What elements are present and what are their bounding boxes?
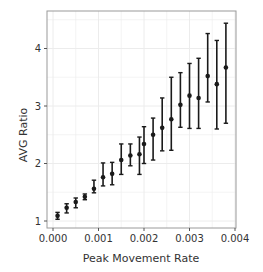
x-tick-label: 0.004 bbox=[221, 233, 250, 244]
data-point bbox=[196, 58, 201, 128]
data-point bbox=[110, 162, 115, 184]
x-tick-label: 0.001 bbox=[84, 233, 113, 244]
x-axis-title: Peak Movement Rate bbox=[83, 252, 200, 265]
y-axis: 1234 bbox=[35, 43, 47, 227]
y-tick-label: 4 bbox=[35, 43, 41, 54]
data-point bbox=[224, 23, 229, 123]
data-point bbox=[101, 163, 106, 186]
data-point bbox=[205, 34, 210, 102]
x-tick-label: 0.000 bbox=[39, 233, 68, 244]
x-axis: 0.0000.0010.0020.0030.004 bbox=[39, 228, 250, 244]
data-point bbox=[119, 144, 124, 174]
x-tick-label: 0.002 bbox=[130, 233, 159, 244]
data-point bbox=[215, 40, 220, 129]
y-axis-title: AVG Ratio bbox=[17, 107, 30, 162]
data-point bbox=[92, 180, 97, 193]
data-point bbox=[142, 127, 147, 164]
data-point bbox=[178, 73, 183, 128]
data-point bbox=[73, 198, 78, 208]
data-point bbox=[128, 144, 133, 166]
chart: 0.0000.0010.0020.0030.004 1234 Peak Move… bbox=[0, 0, 263, 272]
y-tick-label: 3 bbox=[35, 101, 41, 112]
data-point bbox=[187, 63, 192, 128]
data-point bbox=[151, 118, 156, 160]
data-point bbox=[83, 194, 88, 200]
x-tick-label: 0.003 bbox=[175, 233, 204, 244]
data-point bbox=[137, 137, 142, 174]
data-series bbox=[55, 23, 228, 219]
data-point bbox=[169, 77, 174, 150]
data-point bbox=[55, 212, 60, 219]
y-tick-label: 1 bbox=[35, 216, 41, 227]
y-tick-label: 2 bbox=[35, 158, 41, 169]
data-point bbox=[64, 204, 69, 213]
